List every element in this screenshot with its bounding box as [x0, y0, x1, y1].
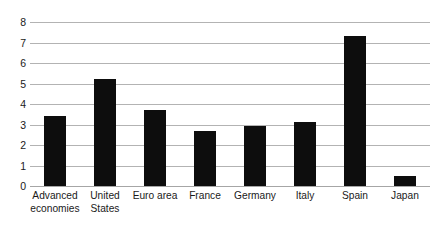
x-axis-tick-label: Spain [330, 190, 380, 203]
bar [344, 36, 366, 186]
y-axis-tick-label: 2 [6, 140, 26, 151]
bar [194, 131, 216, 186]
x-axis-tick-label: France [180, 190, 230, 203]
x-axis-tick-label-line: Italy [280, 190, 330, 203]
y-axis-tick-label: 3 [6, 119, 26, 130]
x-axis-tick-label-line: United [80, 190, 130, 203]
bar [44, 116, 66, 186]
x-axis-tick-label-line: France [180, 190, 230, 203]
bars [30, 22, 430, 186]
bar [244, 126, 266, 186]
bar [294, 122, 316, 186]
bar [394, 176, 416, 186]
y-axis-tick-label: 4 [6, 99, 26, 110]
y-axis-tick-label: 6 [6, 58, 26, 69]
x-axis-tick-label: UnitedStates [80, 190, 130, 215]
x-axis-tick-label: Germany [230, 190, 280, 203]
bar [94, 79, 116, 186]
y-axis-tick-label: 7 [6, 37, 26, 48]
x-axis-tick-label-line: States [80, 203, 130, 216]
y-axis-tick-label: 8 [6, 17, 26, 28]
x-axis: AdvancedeconomiesUnitedStatesEuro areaFr… [30, 190, 430, 224]
bar [144, 110, 166, 186]
x-axis-tick-label-line: Germany [230, 190, 280, 203]
x-axis-tick-label-line: Spain [330, 190, 380, 203]
axis-baseline [30, 186, 430, 187]
y-axis-tick-label: 0 [6, 181, 26, 192]
bar-chart: 012345678 AdvancedeconomiesUnitedStatesE… [0, 0, 448, 225]
x-axis-tick-label: Advancedeconomies [30, 190, 80, 215]
plot-area [30, 22, 430, 186]
x-axis-tick-label: Italy [280, 190, 330, 203]
y-axis-tick-label: 1 [6, 160, 26, 171]
x-axis-tick-label-line: Advanced [30, 190, 80, 203]
x-axis-tick-label: Euro area [130, 190, 180, 203]
x-axis-tick-label: Japan [380, 190, 430, 203]
x-axis-tick-label-line: Euro area [130, 190, 180, 203]
y-axis-tick-label: 5 [6, 78, 26, 89]
x-axis-tick-label-line: economies [30, 203, 80, 216]
x-axis-tick-label-line: Japan [380, 190, 430, 203]
